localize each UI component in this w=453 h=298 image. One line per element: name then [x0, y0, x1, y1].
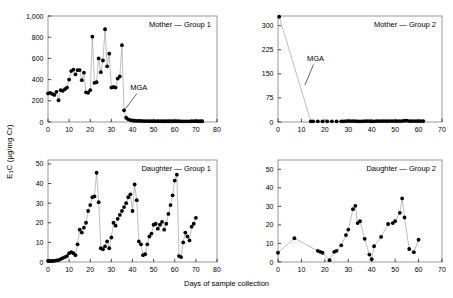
- y-tick-label: 75: [266, 94, 274, 101]
- data-point: [118, 213, 122, 217]
- x-tick-label: 20: [321, 266, 329, 273]
- data-point: [403, 216, 407, 220]
- data-point: [162, 228, 166, 232]
- data-point: [74, 253, 78, 257]
- data-point: [97, 200, 101, 204]
- data-point: [133, 183, 137, 187]
- data-point: [101, 59, 105, 63]
- plot-frame: [278, 16, 442, 122]
- y-tick-label: 50: [36, 160, 44, 167]
- x-tick-label: 10: [298, 266, 306, 273]
- data-point: [65, 86, 69, 90]
- data-point: [76, 242, 80, 246]
- x-tick-label: 10: [65, 266, 73, 273]
- data-point: [328, 258, 332, 262]
- data-point: [150, 232, 154, 236]
- plot-frame: [278, 160, 442, 262]
- data-point: [103, 244, 107, 248]
- data-point: [183, 231, 187, 235]
- data-point: [143, 252, 147, 256]
- data-point: [181, 240, 185, 244]
- data-point: [171, 193, 175, 197]
- x-tick-label: 70: [192, 126, 200, 133]
- x-tick-label: 0: [276, 126, 280, 133]
- data-point: [173, 179, 177, 183]
- y-tick-label: 0: [40, 119, 44, 126]
- data-point: [160, 220, 164, 224]
- data-point: [88, 88, 92, 92]
- data-point: [80, 78, 84, 82]
- x-tick-label: 60: [415, 126, 423, 133]
- y-tick-label: 300: [262, 22, 274, 29]
- data-point: [84, 221, 88, 225]
- y-tick-label: 10: [36, 239, 44, 246]
- data-point: [325, 119, 329, 123]
- x-tick-label: 40: [129, 266, 137, 273]
- data-point: [175, 173, 179, 177]
- data-point: [88, 203, 92, 207]
- annotation-leader-line: [125, 94, 137, 110]
- data-point: [71, 68, 75, 72]
- data-point: [277, 15, 281, 19]
- data-point: [164, 222, 168, 226]
- data-point: [74, 72, 78, 76]
- data-point: [156, 227, 160, 231]
- data-point: [128, 192, 132, 196]
- data-point: [131, 209, 135, 213]
- data-point: [400, 196, 404, 200]
- data-point: [67, 78, 71, 82]
- plot-daughter-group-2: 01020304050607001020304050Daughter — Gro…: [248, 152, 448, 284]
- y-axis-label-units: C (µg/mg Cr): [5, 124, 14, 170]
- data-point: [52, 93, 56, 97]
- data-point: [122, 205, 126, 209]
- data-point: [386, 222, 390, 226]
- y-axis-label: E1C (µg/mg Cr): [2, 96, 16, 206]
- x-tick-label: 60: [415, 266, 423, 273]
- y-tick-label: 30: [36, 200, 44, 207]
- y-tick-label: 200: [32, 97, 44, 104]
- x-tick-label: 30: [107, 266, 115, 273]
- y-tick-label: 40: [266, 184, 274, 191]
- data-point: [346, 228, 350, 232]
- x-tick-label: 0: [46, 126, 50, 133]
- y-tick-label: 20: [266, 221, 274, 228]
- data-point: [421, 119, 425, 123]
- data-point: [95, 171, 99, 175]
- data-point: [107, 52, 111, 56]
- data-point: [330, 119, 334, 123]
- panel-daughter-group-1: 0102030405060708001020304050Daughter — G…: [18, 152, 223, 284]
- x-tick-label: 40: [129, 126, 137, 133]
- data-point: [335, 119, 339, 123]
- x-tick-label: 60: [171, 266, 179, 273]
- x-tick-label: 50: [150, 266, 158, 273]
- data-point: [103, 27, 107, 31]
- data-point: [82, 226, 86, 230]
- data-point: [179, 255, 183, 259]
- x-tick-label: 40: [368, 126, 376, 133]
- data-point: [139, 242, 143, 246]
- data-point: [188, 239, 192, 243]
- data-point: [167, 212, 171, 216]
- data-point: [276, 251, 280, 255]
- x-tick-label: 60: [171, 126, 179, 133]
- data-point: [194, 216, 198, 220]
- data-point: [353, 204, 357, 208]
- data-point: [78, 68, 82, 72]
- data-point: [114, 224, 118, 228]
- y-tick-label: 1,000: [26, 13, 44, 20]
- panel-mother-group-2: 010203040506070075150225300Mother — Grou…: [248, 6, 448, 144]
- data-point: [344, 233, 348, 237]
- x-tick-label: 50: [391, 126, 399, 133]
- data-point: [358, 219, 362, 223]
- x-tick-label: 50: [391, 266, 399, 273]
- plot-daughter-group-1: 0102030405060708001020304050Daughter — G…: [18, 152, 223, 284]
- data-point: [107, 246, 111, 250]
- data-point: [398, 211, 402, 215]
- data-point: [335, 249, 339, 253]
- data-point: [114, 86, 118, 90]
- data-point: [124, 201, 128, 205]
- y-tick-label: 400: [32, 76, 44, 83]
- data-point: [82, 71, 86, 75]
- y-tick-label: 0: [40, 259, 44, 266]
- data-point: [321, 119, 325, 123]
